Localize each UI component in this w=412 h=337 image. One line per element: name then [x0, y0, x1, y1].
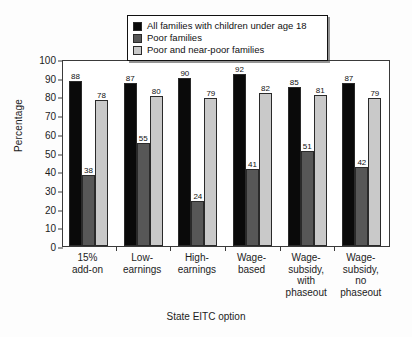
- legend-swatch: [133, 22, 142, 31]
- bar: 79: [368, 98, 381, 246]
- bar: 24: [191, 201, 204, 246]
- x-axis-category-line: High-: [167, 252, 227, 264]
- x-axis-category-label: Wage-subsidy,nophaseout: [331, 252, 391, 298]
- x-axis-title: State EITC option: [0, 311, 412, 322]
- bar: 85: [288, 87, 301, 246]
- x-axis-tick-mark: [116, 246, 117, 251]
- legend-item: All families with children under age 18: [133, 20, 321, 32]
- plot-area: 0102030405060708090100 88387887558090247…: [62, 60, 390, 247]
- chart-legend: All families with children under age 18P…: [127, 15, 328, 61]
- bar-group: 883878: [69, 61, 108, 246]
- bar-group: 855181: [288, 61, 327, 246]
- bar-group: 875580: [124, 61, 163, 246]
- x-axis-category-label: 15%add-on: [58, 252, 118, 275]
- bar: 41: [246, 169, 259, 246]
- x-axis-category-line: with: [276, 275, 336, 287]
- y-axis-tick-label: 0: [11, 243, 63, 253]
- x-axis-tick-mark: [225, 246, 226, 251]
- bar-value-label: 79: [205, 90, 216, 98]
- bar: 81: [314, 95, 327, 246]
- bar: 79: [204, 98, 217, 246]
- legend-label: Poor families: [147, 33, 202, 43]
- x-axis-category-line: Wage-: [276, 252, 336, 264]
- bar-value-label: 90: [179, 70, 190, 78]
- y-axis-tick-label: 100: [11, 56, 63, 66]
- y-axis-tick-label: 90: [11, 75, 63, 85]
- y-axis-tick-label: 20: [11, 206, 63, 216]
- legend-label: Poor and near-poor families: [147, 45, 264, 55]
- bar-value-label: 24: [192, 193, 203, 201]
- bar: 51: [301, 151, 314, 246]
- bar-value-label: 38: [83, 167, 94, 175]
- x-axis-category-line: phaseout: [276, 287, 336, 299]
- x-axis-category-label: Low-earnings: [112, 252, 172, 275]
- bar-group: 874279: [342, 61, 381, 246]
- x-axis-tick-mark: [170, 246, 171, 251]
- y-axis-tick-label: 10: [11, 224, 63, 234]
- x-axis-category-label: Wage-based: [222, 252, 282, 275]
- bar-value-label: 82: [260, 85, 271, 93]
- bar: 87: [342, 83, 355, 246]
- x-axis-category-line: 15%: [58, 252, 118, 264]
- bar-value-label: 42: [356, 159, 367, 167]
- bar-value-label: 87: [343, 75, 354, 83]
- bar: 88: [69, 81, 82, 246]
- bar-value-label: 78: [96, 92, 107, 100]
- bar: 38: [82, 175, 95, 246]
- bar: 55: [137, 143, 150, 246]
- x-axis-category-line: earnings: [167, 264, 227, 276]
- bar-value-label: 80: [151, 88, 162, 96]
- bar: 42: [355, 167, 368, 246]
- x-axis-category-line: subsidy,: [276, 264, 336, 276]
- x-axis-tick-mark: [280, 246, 281, 251]
- x-axis-category-label: Wage-subsidy,withphaseout: [276, 252, 336, 298]
- bar-value-label: 41: [247, 161, 258, 169]
- x-axis-category-line: Wage-: [331, 252, 391, 264]
- bar-series-container: 883878875580902479924182855181874279: [63, 61, 389, 246]
- bar-value-label: 81: [315, 87, 326, 95]
- bar: 78: [95, 100, 108, 246]
- bar-group: 902479: [178, 61, 217, 246]
- legend-item: Poor families: [133, 32, 321, 44]
- y-axis-tick-label: 50: [11, 150, 63, 160]
- y-axis-tick-mark: [58, 248, 63, 249]
- bar: 87: [124, 83, 137, 246]
- x-axis-category-line: Wage-: [222, 252, 282, 264]
- x-axis-category-line: Low-: [112, 252, 172, 264]
- bar-group: 924182: [233, 61, 272, 246]
- x-axis-category-line: based: [222, 264, 282, 276]
- y-axis-tick-label: 70: [11, 112, 63, 122]
- x-axis-category-label: High-earnings: [167, 252, 227, 275]
- bar: 80: [150, 96, 163, 246]
- bar-value-label: 88: [70, 73, 81, 81]
- legend-swatch: [133, 34, 142, 43]
- bar: 92: [233, 74, 246, 246]
- legend-label: All families with children under age 18: [147, 21, 306, 31]
- x-axis-category-line: subsidy,: [331, 264, 391, 276]
- x-axis-tick-mark: [334, 246, 335, 251]
- bar: 90: [178, 78, 191, 246]
- y-axis-tick-label: 80: [11, 93, 63, 103]
- y-axis-tick-label: 40: [11, 168, 63, 178]
- bar-value-label: 79: [369, 90, 380, 98]
- bar-value-label: 85: [289, 79, 300, 87]
- bar-chart-figure: Percentage State EITC option 01020304050…: [0, 0, 412, 337]
- x-axis-category-line: earnings: [112, 264, 172, 276]
- legend-item: Poor and near-poor families: [133, 44, 321, 56]
- bar-value-label: 51: [302, 143, 313, 151]
- y-axis-tick-label: 60: [11, 131, 63, 141]
- bar-value-label: 87: [125, 75, 136, 83]
- x-axis-category-line: add-on: [58, 264, 118, 276]
- x-axis-category-line: no: [331, 275, 391, 287]
- x-axis-category-line: phaseout: [331, 287, 391, 299]
- bar-value-label: 92: [234, 66, 245, 74]
- legend-swatch: [133, 46, 142, 55]
- y-axis-tick-label: 30: [11, 187, 63, 197]
- bar-value-label: 55: [138, 135, 149, 143]
- bar: 82: [259, 93, 272, 246]
